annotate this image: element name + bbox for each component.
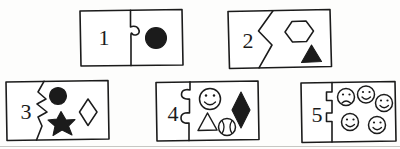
tile-4[interactable]: 4	[156, 81, 259, 141]
tile-1[interactable]: 1	[80, 10, 183, 67]
tile-2-numeral: 2	[243, 28, 254, 53]
smiley-face-shape	[358, 86, 375, 103]
tile-2[interactable]: 2	[228, 10, 332, 69]
smiley-face-shape	[369, 117, 386, 134]
tile-4-numeral: 4	[168, 101, 179, 126]
smiley-face-shape	[342, 114, 359, 131]
tile-3-numeral: 3	[21, 99, 32, 124]
smiley-face-shape	[200, 89, 221, 110]
frowny-face-shape	[338, 89, 355, 106]
tile-5[interactable]: 5	[301, 82, 396, 143]
tile-3[interactable]: 3	[6, 81, 109, 141]
tile-1-numeral: 1	[99, 25, 110, 50]
worksheet-canvas: 1 2 3 4	[0, 0, 400, 149]
smiley-face-shape	[376, 95, 393, 112]
circle-shape	[50, 88, 67, 105]
tile-5-numeral: 5	[312, 102, 323, 127]
ball-shape	[219, 119, 236, 136]
circle-shape	[146, 28, 167, 49]
